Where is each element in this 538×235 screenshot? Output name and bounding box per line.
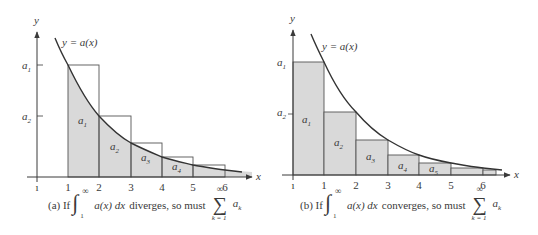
caption-verb: diverges, so must	[129, 199, 206, 211]
svg-text:4: 4	[416, 179, 422, 191]
y-axis-label: y	[33, 14, 39, 26]
caption-prefix: (a) If	[48, 199, 70, 211]
svg-text:5: 5	[448, 179, 454, 191]
caption-integrand: a(x) dx	[347, 199, 378, 211]
caption-b: (b) If ∫ ∞ 1 a(x) dx converges, so must …	[300, 192, 501, 218]
svg-text:ı: ı	[35, 181, 38, 193]
y-tick-a1: a1	[277, 56, 286, 71]
caption-term: ak	[493, 197, 502, 212]
caption-prefix: (b) If	[300, 199, 323, 211]
panel-a: y x y = a(x) a1 a2 ı 1 2 3 4 5 6 a1 a2 a…	[22, 14, 261, 193]
integral-symbol: ∫ ∞ 1	[325, 192, 339, 218]
caption-integrand: a(x) dx	[94, 199, 125, 211]
sum-symbol: ∑ ∞ k = 1	[472, 192, 490, 218]
curve-label: y = a(x)	[321, 40, 358, 53]
x-tick-labels: ı 1 2 3 4 5 6	[291, 179, 486, 191]
sum-symbol: ∑ ∞ k = 1	[212, 192, 230, 218]
y-axis-label: y	[289, 12, 295, 24]
x-axis-label: x	[513, 168, 519, 180]
caption-verb: converges, so must	[382, 199, 466, 211]
caption-a: (a) If ∫ ∞ 1 a(x) dx diverges, so must ∑…	[48, 192, 241, 218]
curve-label: y = a(x)	[61, 36, 98, 49]
lower-rectangles	[293, 62, 496, 175]
svg-text:3: 3	[385, 179, 391, 191]
svg-text:ı: ı	[291, 179, 294, 191]
caption-term: ak	[233, 197, 242, 212]
panel-b: y x y = a(x) a1 a2 ı 1 2 3 4 5 6 a1 a2 a…	[277, 12, 519, 191]
y-tick-a2: a2	[277, 106, 287, 121]
integral-symbol: ∫ ∞ 1	[72, 192, 86, 218]
y-tick-a1: a1	[22, 59, 31, 74]
y-tick-a2: a2	[22, 110, 32, 125]
shaded-area-under-curve	[68, 65, 252, 177]
x-axis-label: x	[255, 170, 261, 182]
svg-text:2: 2	[353, 179, 359, 191]
